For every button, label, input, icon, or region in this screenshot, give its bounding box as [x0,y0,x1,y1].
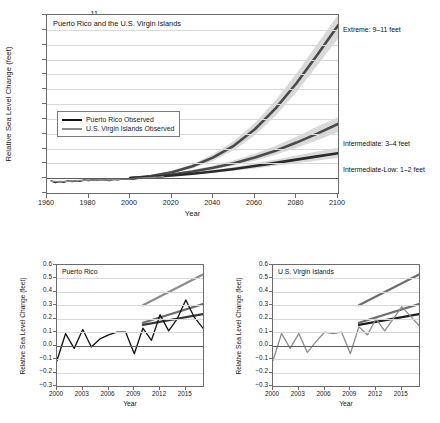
sub-y-tick: 0.5 [242,274,268,280]
sub-y-tick: 0.6 [26,261,52,267]
sub-gridline [57,278,203,279]
main-projection-panel: Relative Sea Level Change (feet) −101234… [0,0,440,248]
main-gridline [47,45,338,46]
sub-gridline [273,359,419,360]
sub-x-tickmark [185,387,186,390]
legend-item-us-virgin-islands: U.S. Virgin Islands Observed [62,124,174,133]
sub-y-tick: 0.4 [26,287,52,293]
main-legend: Puerto Rico Observed U.S. Virgin Islands… [57,111,180,137]
pr-x-axis-label: Year [56,400,204,407]
sub-gridline [273,332,419,333]
sub-x-tickmark [82,387,83,390]
usvi-x-axis-label: Year [272,400,420,407]
sub-y-tick: 0.0 [26,341,52,347]
main-y-axis-label: Relative Sea Level Change (feet) [2,14,14,194]
pr-panel-tag: Puerto Rico [62,268,98,275]
sub-y-tick: 0.2 [26,314,52,320]
main-x-tick: 2040 [192,198,232,207]
main-x-tickmark [212,194,213,198]
sub-gridline [273,292,419,293]
sub-x-tickmark [133,387,134,390]
puerto-rico-detail-panel: Relative Sea Level Change (feet) −0.3−0.… [0,252,220,423]
sub-x-tickmark [349,387,350,390]
sub-gridline [57,319,203,320]
legend-swatch-puerto-rico [62,119,82,121]
annotation-extreme: Extreme: 9–11 feet [343,26,401,33]
main-x-tickmark [295,194,296,198]
sub-gridline [57,332,203,333]
sub-gridline [273,278,419,279]
main-gridline [47,74,338,75]
sub-y-tick: −0.1 [26,355,52,361]
sub-y-tick: 0.3 [242,301,268,307]
sub-y-tick: −0.1 [242,355,268,361]
main-x-tick: 2020 [151,198,191,207]
main-x-tick: 1980 [68,198,108,207]
usvi-plot-area: U.S. Virgin Islands [272,264,420,387]
sub-x-tickmark [324,387,325,390]
sub-y-tick: 0.3 [26,301,52,307]
pr-series-svg [57,265,203,386]
main-gridline [47,89,338,90]
main-x-tickmark [88,194,89,198]
main-gridline [47,30,338,31]
sub-y-tick: 0.4 [242,287,268,293]
main-gridline [47,60,338,61]
observed-puerto-rico-observed [57,300,203,361]
legend-label-us-virgin-islands: U.S. Virgin Islands Observed [86,125,174,132]
sub-zero-line [273,346,419,347]
sub-y-tick: 0.6 [242,261,268,267]
sea-level-figure: Relative Sea Level Change (feet) −101234… [0,0,440,423]
sub-gridline [57,305,203,306]
main-plot-area: Puerto Rico and the U.S. Virgin Islands … [46,14,339,194]
main-x-tick: 2060 [234,198,274,207]
main-x-tickmark [254,194,255,198]
legend-swatch-us-virgin-islands [62,128,82,130]
sub-x-tick: 2015 [170,390,200,397]
sub-x-tickmark [298,387,299,390]
annotation-intermediate-low: Intermediate-Low: 1–2 feet [343,166,425,173]
sub-gridline [57,359,203,360]
sub-y-tick: 0.1 [26,328,52,334]
main-panel-tag: Puerto Rico and the U.S. Virgin Islands [53,19,181,28]
sub-y-tick: −0.2 [26,368,52,374]
sub-gridline [273,319,419,320]
sub-zero-line [57,346,203,347]
main-x-tick: 2100 [317,198,357,207]
sub-x-tickmark [401,387,402,390]
observed-u-s-virgin-islands-observed [273,307,419,361]
sub-x-tickmark [108,387,109,390]
sub-y-tick: 0.0 [242,341,268,347]
sub-y-tick: 0.2 [242,314,268,320]
legend-label-puerto-rico: Puerto Rico Observed [86,116,154,123]
sub-x-tick: 2015 [386,390,416,397]
sub-y-tick: −0.3 [242,382,268,388]
main-gridline [47,163,338,164]
sub-gridline [57,373,203,374]
main-x-tickmark [129,194,130,198]
sub-gridline [273,373,419,374]
usvi-detail-panel: Relative Sea Level Change (feet) −0.3−0.… [216,252,436,423]
main-gridline [47,104,338,105]
main-zero-line [47,178,338,179]
usvi-panel-tag: U.S. Virgin Islands [278,268,334,275]
legend-item-puerto-rico: Puerto Rico Observed [62,115,174,124]
pr-plot-area: Puerto Rico [56,264,204,387]
sub-y-tick: −0.3 [26,382,52,388]
main-x-axis-label: Year [46,209,339,218]
sub-x-tickmark [375,387,376,390]
main-x-tickmark [46,194,47,198]
sub-x-tickmark [272,387,273,390]
sub-gridline [273,305,419,306]
annotation-intermediate: Intermediate: 3–4 feet [343,140,410,147]
sub-gridline [57,292,203,293]
main-gridline [47,149,338,150]
main-x-tickmark [337,194,338,198]
main-x-tick: 2080 [275,198,315,207]
main-x-tickmark [171,194,172,198]
sub-y-tick: 0.5 [26,274,52,280]
sub-x-tickmark [159,387,160,390]
sub-y-tick: −0.2 [242,368,268,374]
sub-x-tickmark [56,387,57,390]
main-x-tick: 2000 [109,198,149,207]
